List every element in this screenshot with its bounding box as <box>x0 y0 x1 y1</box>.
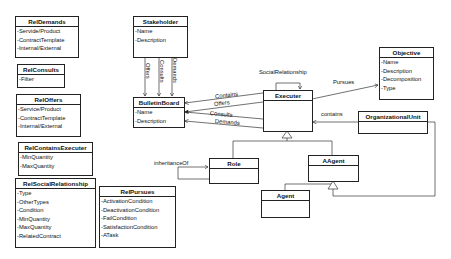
class-title: Executer <box>264 91 312 101</box>
class-title: OrganizationalUnit <box>359 112 427 122</box>
attribute: -MaxQuantity <box>20 162 92 171</box>
attribute: -Condition <box>17 206 95 215</box>
attribute: -MaxQuantity <box>17 223 95 232</box>
class-aagent: AAgent <box>308 155 359 182</box>
class-title: RelPursues <box>100 187 175 197</box>
class-title: RelOffers <box>17 95 80 105</box>
attribute: -SatisfactionCondition <box>101 223 175 232</box>
attribute: -Description <box>135 117 184 126</box>
uml-diagram: RelDemands -Servide/Product -ContractTem… <box>0 0 451 259</box>
class-rel-pursues: RelPursues -ActivationCondition -Deactiv… <box>99 186 176 248</box>
attribute: -FailCondition <box>101 214 175 223</box>
attribute: -Internal/External <box>18 122 80 131</box>
class-attributes: -Name -Description -Decomposition -Type <box>380 58 433 92</box>
class-rel-contains-executer: RelContainsExecuter -MinQuantity -MaxQua… <box>18 142 93 176</box>
class-stakeholder: Stakeholder -Name -Description <box>133 16 188 58</box>
relation-label-inheritance-of: inheritanceOf <box>154 160 188 166</box>
attribute: -ContractTemplate <box>18 114 80 123</box>
class-role: Role <box>209 158 259 184</box>
attribute: -ActivationCondition <box>101 197 175 206</box>
attribute: -Internal/External <box>17 44 78 53</box>
class-title: Stakeholder <box>134 17 187 27</box>
attribute: -Servide/Product <box>17 27 78 36</box>
class-title: AAgent <box>309 156 358 166</box>
attribute: -MinQuantity <box>17 215 95 224</box>
class-attributes: -Filter <box>18 75 64 84</box>
attribute: -Filter <box>19 75 64 84</box>
class-title: Role <box>210 159 258 169</box>
class-rel-consults: RelConsults -Filter <box>17 64 65 88</box>
relation-label-offers: Offers <box>145 63 151 79</box>
class-organizational-unit: OrganizationalUnit <box>358 111 428 134</box>
class-title: RelConsults <box>18 65 64 75</box>
attribute: -OtherTypes <box>17 198 95 207</box>
class-rel-offers: RelOffers -Service/Product -ContractTemp… <box>16 94 81 137</box>
class-attributes: -Type -OtherTypes -Condition -MinQuantit… <box>16 189 95 241</box>
class-attributes: -MinQuantity -MaxQuantity <box>19 153 92 170</box>
relation-label-pursues: Pursues <box>333 79 354 85</box>
class-rel-demands: RelDemands -Servide/Product -ContractTem… <box>15 16 79 58</box>
attribute: -Name <box>381 58 433 67</box>
class-rel-social-relationship: RelSocialRelationship -Type -OtherTypes … <box>15 178 96 248</box>
class-title: BulletinBoard <box>134 98 184 108</box>
attribute: -Decomposition <box>381 75 433 84</box>
relation-label-contains: contains <box>321 111 343 117</box>
attribute: -ATask <box>101 231 175 240</box>
attribute: -DeactivationCondition <box>101 206 175 215</box>
class-title: RelSocialRelationship <box>16 179 95 189</box>
relation-label-demands: Demands <box>172 58 178 83</box>
class-attributes: -Service/Product -ContractTemplate -Inte… <box>17 105 80 131</box>
class-agent: Agent <box>261 190 310 218</box>
class-executer: Executer <box>263 90 313 132</box>
class-title: RelContainsExecuter <box>19 143 92 153</box>
attribute: -MinQuantity <box>20 153 92 162</box>
attribute: -Name <box>135 27 187 36</box>
class-attributes: -ActivationCondition -DeactivationCondit… <box>100 197 175 240</box>
class-objective: Objective -Name -Description -Decomposit… <box>379 47 434 100</box>
attribute: -RelatedContract <box>17 232 95 241</box>
class-attributes: -Name -Description <box>134 108 184 125</box>
attribute: -Description <box>381 67 433 76</box>
attribute: -Description <box>135 36 187 45</box>
attribute: -ContractTemplate <box>17 36 78 45</box>
attribute: -Type <box>17 189 95 198</box>
attribute: -Name <box>135 108 184 117</box>
class-title: RelDemands <box>16 17 78 27</box>
class-attributes: -Servide/Product -ContractTemplate -Inte… <box>16 27 78 53</box>
class-attributes: -Name -Description <box>134 27 187 44</box>
class-bulletin-board: BulletinBoard -Name -Description <box>133 97 185 128</box>
relation-label-consults: Consults <box>159 60 165 83</box>
class-title: Objective <box>380 48 433 58</box>
attribute: -Service/Product <box>18 105 80 114</box>
relation-label-social-relationship: SocialRelationship <box>259 69 307 75</box>
attribute: -Type <box>381 84 433 93</box>
class-title: Agent <box>262 191 309 201</box>
